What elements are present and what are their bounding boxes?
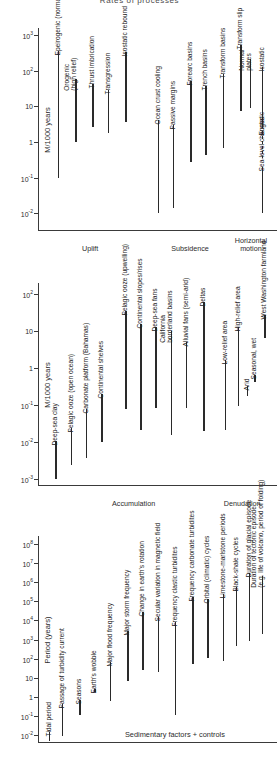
range-bar: [142, 612, 144, 670]
range-bar: [101, 394, 103, 442]
range-bar: [225, 360, 227, 430]
range-bar-label: Orbital (climatic) cycles: [203, 536, 210, 604]
range-bar-label: Limestone-marlstone periods: [218, 513, 225, 598]
range-bar-label: Deep-sea clay: [51, 403, 58, 445]
y-axis-tick: [34, 563, 38, 564]
group-label: Uplift: [62, 245, 118, 253]
group-label: Subsidence: [162, 245, 218, 253]
y-axis-tick: [34, 601, 38, 602]
range-bar-label: Seasonal, wet: [250, 338, 257, 379]
range-bar-label: Alluvial fans (semi-arid): [181, 278, 188, 347]
y-axis-tick-label: 10-2: [21, 209, 33, 218]
range-bar: [86, 409, 88, 458]
range-bar-label: Transform basins: [218, 27, 225, 78]
range-bar-label: Isostatic: [257, 47, 264, 71]
plot-area: Period (years) 1081071061051041031021011…: [38, 536, 277, 743]
y-axis-tick: [34, 213, 38, 214]
group-label: Accumulation: [106, 500, 162, 508]
panel-period: Period (years) 1081071061051041031021011…: [0, 528, 279, 777]
range-bar-label: Tidal period: [44, 703, 51, 737]
range-bar-label: Frequency clastic turbidites: [170, 547, 177, 627]
range-bar-label: Pelagic ooze (open ocean): [66, 354, 73, 432]
range-bar: [205, 86, 207, 156]
range-bar: [207, 599, 209, 657]
y-axis-tick: [34, 678, 38, 679]
y-axis-tick: [34, 368, 38, 369]
range-bar-label: Epeirogenic (normal relief): [53, 0, 60, 56]
range-bar: [186, 342, 188, 408]
range-bar: [92, 84, 94, 127]
x-axis-line: [38, 742, 277, 743]
range-bar: [173, 125, 175, 208]
range-bar: [62, 704, 64, 737]
y-axis-tick-label: 108: [22, 539, 33, 548]
y-axis-tick-label: 102: [22, 654, 33, 663]
group-label: Horizontal motion: [223, 237, 279, 253]
range-bar-label: Deltas: [199, 288, 206, 307]
range-bar-label: Ocean crust cooling: [153, 66, 160, 124]
range-bar-label: Seasons: [75, 679, 82, 705]
plot-area: M/1000 years 10310210110-110-2Epeirogeni…: [38, 28, 277, 231]
range-bar-label: California borderland basins: [159, 290, 174, 342]
figure-root: Rates of processes M/1000 years 10310210…: [0, 0, 279, 777]
range-bar: [236, 587, 238, 645]
range-bar-label: Isostatic rebound: [121, 6, 128, 56]
range-bar-label: Trench basins: [201, 49, 208, 90]
y-axis-tick: [34, 620, 38, 621]
y-axis-tick-label: 1: [29, 694, 33, 701]
range-bar: [58, 51, 60, 177]
range-bar: [125, 311, 127, 410]
x-axis-line: [38, 230, 277, 231]
y-axis-tick-label: 102: [22, 289, 33, 298]
range-bar: [158, 120, 160, 213]
y-axis-tick: [34, 697, 38, 698]
range-bar: [190, 81, 192, 162]
y-axis-tick: [34, 582, 38, 583]
y-axis-tick: [34, 71, 38, 72]
y-axis-tick: [34, 659, 38, 660]
range-bar-label: Continental shelves: [97, 341, 104, 399]
range-bar: [223, 594, 225, 661]
range-bar: [55, 441, 57, 479]
y-axis-tick: [34, 106, 38, 107]
range-bar: [155, 327, 157, 409]
y-axis-tick-label: 10-1: [21, 400, 33, 409]
range-bar-label: West Washington farmland: [260, 241, 267, 320]
range-bar-label: Arid: [242, 378, 249, 390]
y-axis-label: M/1000 years: [43, 107, 52, 152]
y-axis-tick: [34, 331, 38, 332]
range-bar-label: Forearc basins: [186, 41, 193, 85]
range-bar-label: Transgression: [103, 53, 110, 95]
range-bar-label: Major storm frequency: [123, 570, 130, 636]
y-axis-tick-label: 10: [25, 103, 33, 110]
range-bar: [238, 327, 240, 406]
y-axis-tick: [34, 442, 38, 443]
y-axis-tick-label: 106: [22, 577, 33, 586]
y-axis-tick-label: 10-2: [21, 731, 33, 740]
y-axis-tick-label: 10-1: [21, 711, 33, 720]
range-bar-label: Frequency carbonate turbidites: [188, 511, 195, 602]
y-axis-tick-label: 103: [22, 30, 33, 39]
range-bar: [203, 302, 205, 431]
y-axis-tick-label: 105: [22, 596, 33, 605]
y-axis-label: M/1000 years: [43, 362, 52, 407]
y-axis-tick: [34, 716, 38, 717]
y-axis-line: [38, 283, 39, 486]
y-axis-label: Period (years): [43, 616, 52, 663]
range-bar: [110, 662, 112, 701]
range-bar-label: Transform slip: [236, 8, 243, 50]
plot-area: M/1000 years 10210110-110-210-3Deep-sea …: [38, 283, 277, 486]
range-bar-label: Normal plates: [238, 50, 253, 71]
range-bar-label: Passive margins: [168, 81, 175, 129]
y-axis-line: [38, 28, 39, 231]
range-bar: [108, 90, 110, 132]
y-axis-tick: [34, 405, 38, 406]
range-bar: [175, 622, 177, 715]
range-bar: [171, 331, 173, 435]
y-axis-tick-label: 10-2: [21, 437, 33, 446]
range-bar-label: Secular variation in magnetic field: [153, 523, 160, 622]
y-axis-tick-label: 104: [22, 616, 33, 625]
range-bar: [158, 617, 160, 671]
range-bar-label: Low-relief area: [220, 321, 227, 365]
y-axis-tick: [34, 178, 38, 179]
